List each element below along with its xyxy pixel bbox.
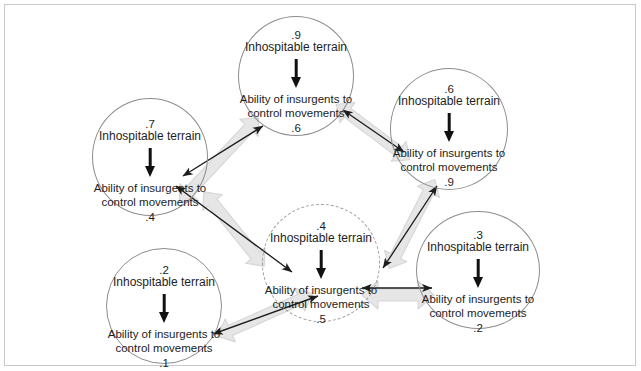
down-arrow-icon bbox=[473, 259, 483, 289]
node-left-effect-label: Ability of insurgents to control movemen… bbox=[94, 181, 207, 210]
node-bottom-left[interactable]: .2 Inhospitable terrain Ability of insur… bbox=[106, 248, 222, 364]
node-upper-right[interactable]: .6 Inhospitable terrain Ability of insur… bbox=[390, 68, 508, 190]
node-left-effect-value: .4 bbox=[145, 211, 155, 224]
node-bottom-left-effect-label: Ability of insurgents to control movemen… bbox=[108, 327, 221, 356]
down-arrow-icon bbox=[444, 113, 454, 143]
node-top-effect-label: Ability of insurgents to control movemen… bbox=[240, 92, 353, 121]
node-top-effect-line1: Ability of insurgents to bbox=[240, 93, 353, 105]
node-center-cause-label: Inhospitable terrain bbox=[270, 232, 372, 246]
node-bottom-left-cause-label: Inhospitable terrain bbox=[113, 276, 215, 290]
node-top[interactable]: .9 Inhospitable terrain Ability of insur… bbox=[238, 16, 354, 136]
down-arrow-icon bbox=[316, 250, 326, 280]
node-bottom-left-effect-value: .1 bbox=[159, 357, 169, 370]
node-right-cause-label: Inhospitable terrain bbox=[427, 241, 529, 255]
node-upper-right-cause-label: Inhospitable terrain bbox=[398, 95, 500, 109]
node-right[interactable]: .3 Inhospitable terrain Ability of insur… bbox=[416, 211, 540, 329]
node-bottom-left-effect-line1: Ability of insurgents to bbox=[108, 328, 221, 340]
node-left-effect-line1: Ability of insurgents to bbox=[94, 182, 207, 194]
node-upper-right-effect-line1: Ability of insurgents to bbox=[393, 147, 506, 159]
down-arrow-icon bbox=[291, 59, 301, 89]
node-center-effect-value: .5 bbox=[316, 313, 326, 326]
node-right-effect-label: Ability of insurgents to control movemen… bbox=[422, 292, 535, 321]
node-right-effect-line2: control movements bbox=[429, 307, 526, 319]
node-top-effect-line2: control movements bbox=[247, 107, 344, 119]
node-center-effect-label: Ability of insurgents to control movemen… bbox=[265, 283, 378, 312]
node-upper-right-effect-value: .9 bbox=[444, 176, 454, 189]
node-center-effect-line2: control movements bbox=[272, 298, 369, 310]
down-arrow-icon bbox=[145, 148, 155, 178]
node-right-effect-value: .2 bbox=[473, 322, 483, 335]
node-center[interactable]: .4 Inhospitable terrain Ability of insur… bbox=[262, 204, 380, 322]
figure-canvas: .9 Inhospitable terrain Ability of insur… bbox=[0, 0, 641, 371]
node-left[interactable]: .7 Inhospitable terrain Ability of insur… bbox=[92, 98, 208, 216]
node-upper-right-effect-label: Ability of insurgents to control movemen… bbox=[393, 146, 506, 175]
node-center-effect-line1: Ability of insurgents to bbox=[265, 284, 378, 296]
node-top-cause-label: Inhospitable terrain bbox=[245, 41, 347, 55]
node-upper-right-effect-line2: control movements bbox=[400, 161, 497, 173]
node-left-cause-label: Inhospitable terrain bbox=[99, 130, 201, 144]
node-left-effect-line2: control movements bbox=[101, 196, 198, 208]
node-top-effect-value: .6 bbox=[291, 122, 301, 135]
node-bottom-left-effect-line2: control movements bbox=[115, 342, 212, 354]
node-right-effect-line1: Ability of insurgents to bbox=[422, 293, 535, 305]
down-arrow-icon bbox=[159, 294, 169, 324]
